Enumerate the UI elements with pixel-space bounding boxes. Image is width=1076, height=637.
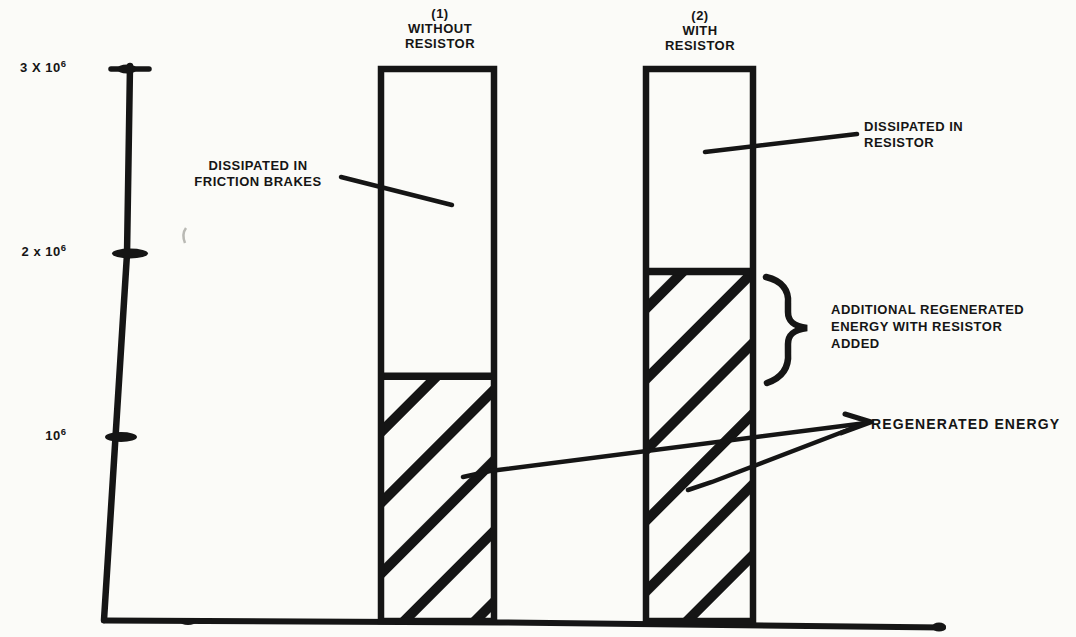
bar1-header: (1) WITHOUT RESISTOR [365, 6, 515, 51]
y-tick-label-1e6: 106 [6, 428, 66, 444]
y-tick-2e6 [112, 249, 148, 259]
brace-additional-energy-icon [766, 277, 807, 383]
x-axis [104, 621, 943, 628]
label-additional-regenerated-energy: ADDITIONAL REGENERATED ENERGY WITH RESIS… [831, 301, 1071, 352]
y-tick-label-2e6-exponent: 6 [61, 242, 66, 253]
y-tick-label-1e6-exponent: 6 [61, 426, 66, 437]
y-tick-label-3e6-exponent: 6 [61, 58, 66, 69]
x-axis-mark [180, 618, 196, 625]
y-tick-label-2e6-base: 2 x 10 [22, 244, 61, 259]
y-axis [104, 66, 130, 620]
bar-1-regenerated-hatch [384, 379, 492, 618]
label-regenerated-energy: REGENERATED ENERGY [871, 416, 1060, 432]
x-axis-end-blob [932, 623, 946, 632]
y-tick-label-3e6: 3 X 106 [6, 60, 66, 76]
y-tick-1e6 [105, 432, 137, 442]
figure-regenerative-braking-energy-chart: (1) WITHOUT RESISTOR (2) WITH RESISTOR 3… [0, 0, 1076, 637]
y-tick-label-3e6-base: 3 X 10 [20, 60, 61, 75]
y-tick-label-2e6: 2 x 106 [6, 244, 66, 260]
bars-group [381, 69, 753, 621]
scan-artifact [184, 228, 186, 243]
label-dissipated-resistor: DISSIPATED IN RESISTOR [864, 119, 963, 151]
y-tick-label-1e6-base: 10 [45, 428, 60, 443]
label-dissipated-friction-brakes: DISSIPATED IN FRICTION BRAKES [178, 158, 338, 190]
y-tick-3e6-blob [117, 65, 137, 74]
bar2-header: (2) WITH RESISTOR [625, 8, 775, 53]
